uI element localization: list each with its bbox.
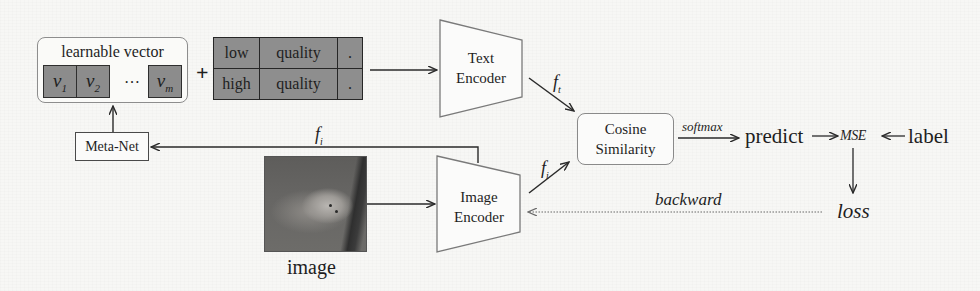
vector-cell-v1: v1 [43,65,77,98]
cell-base: v [157,70,165,91]
cell-subscript: 2 [94,82,100,94]
softmax-label: softmax [682,119,722,135]
image-detail [329,204,332,207]
prompt-row-low: low quality . [214,38,363,69]
vector-ellipsis: … [124,69,140,87]
prompt-period: . [338,38,363,69]
image-encoder-line2: Encoder [444,207,514,227]
meta-net-box: Meta-Net [75,132,149,161]
prompt-word: quality [260,38,338,69]
cell-subscript: 1 [61,82,67,94]
feature-subscript: i [320,136,323,147]
cosine-similarity-box: Cosine Similarity [577,113,674,165]
loss-label: loss [837,199,870,224]
image-caption: image [287,256,336,279]
feature-subscript: t [558,84,561,95]
prompt-word: high [214,69,260,100]
text-encoder-line1: Text [446,48,516,68]
image-encoder-label: Image Encoder [444,187,514,227]
plus-sign: + [196,60,209,86]
vector-cell-v2: v2 [76,65,110,98]
cosine-line1: Cosine [578,119,673,139]
predict-label: predict [745,124,803,149]
prompt-period: . [338,69,363,100]
prompt-row-high: high quality . [214,69,363,100]
vector-cell-vm: vm [148,65,182,98]
image-detail [335,210,338,213]
image-encoder-line1: Image [444,187,514,207]
text-feature-label: ft [553,72,561,95]
ground-truth-label: label [908,124,949,149]
learnable-vector-title: learnable vector [38,43,187,61]
mse-label: MSE [840,128,866,144]
cosine-line2: Similarity [578,139,673,159]
meta-net-label: Meta-Net [85,139,139,154]
backward-label: backward [655,190,721,210]
image-feature-label-meta: fi [315,124,323,147]
text-encoder-label: Text Encoder [446,48,516,88]
feature-subscript: i [546,170,549,181]
learnable-vector-box: learnable vector v1 v2 … vm [37,37,188,103]
cell-subscript: m [165,82,173,94]
text-encoder-line2: Encoder [446,68,516,88]
prompt-word: low [214,38,260,69]
prompt-template-table: low quality . high quality . [213,37,363,100]
image-feature-label: fi [541,158,549,181]
prompt-word: quality [260,69,338,100]
input-image-thumbnail [264,156,367,252]
